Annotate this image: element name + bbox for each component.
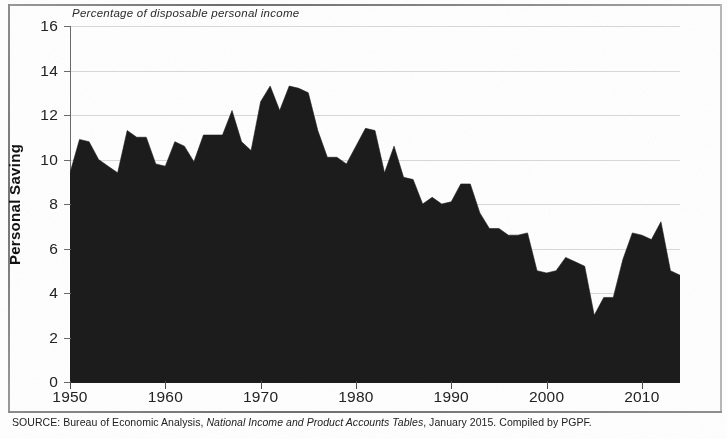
y-tick-mark (64, 338, 71, 339)
figure-container: Percentage of disposable personal income… (0, 0, 727, 439)
x-tick-label: 1950 (52, 388, 87, 406)
x-tick-label: 2000 (529, 388, 564, 406)
figure-border-top (8, 4, 722, 6)
y-tick-mark (64, 204, 71, 205)
y-tick-label: 8 (49, 195, 58, 213)
y-axis-title-label: Personal Saving (7, 143, 24, 264)
y-tick-label: 16 (40, 17, 58, 35)
y-tick-mark (64, 160, 71, 161)
x-tick-label: 1960 (148, 388, 183, 406)
x-tick-label: 1970 (243, 388, 278, 406)
source-prefix: SOURCE: Bureau of Economic Analysis, (12, 416, 203, 428)
y-tick-label: 10 (40, 151, 58, 169)
chart-subtitle: Percentage of disposable personal income (72, 7, 299, 19)
y-tick-mark (64, 26, 71, 27)
y-axis-title: Personal Saving (2, 0, 28, 408)
area-series-personal-saving (70, 26, 680, 382)
plot-area: 0246810121416 19501960197019801990200020… (70, 26, 680, 382)
y-tick-label: 2 (49, 329, 58, 347)
y-tick-mark (64, 293, 71, 294)
x-tick-label: 2010 (624, 388, 659, 406)
y-tick-label: 4 (49, 284, 58, 302)
source-publication-title: National Income and Product Accounts Tab… (206, 416, 423, 428)
y-tick-label: 6 (49, 240, 58, 258)
x-tick-label: 1980 (338, 388, 373, 406)
y-tick-label: 14 (40, 62, 58, 80)
y-tick-mark (64, 71, 71, 72)
y-tick-mark (64, 249, 71, 250)
figure-border-right (720, 4, 722, 413)
source-caption: SOURCE: Bureau of Economic Analysis, Nat… (12, 416, 712, 428)
y-tick-label: 12 (40, 106, 58, 124)
y-tick-mark (64, 115, 71, 116)
figure-border-bottom (8, 411, 722, 413)
source-suffix: , January 2015. Compiled by PGPF. (423, 416, 592, 428)
x-tick-label: 1990 (434, 388, 469, 406)
